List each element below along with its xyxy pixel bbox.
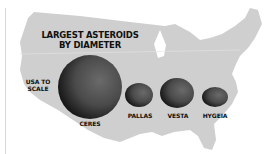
scale-label-line-2: SCALE	[22, 85, 54, 92]
title-line-2: BY DIAMETER	[40, 40, 140, 50]
ceres-asteroid	[58, 55, 122, 119]
vesta-asteroid	[160, 78, 194, 108]
hygeia-label: HYGEIA	[195, 112, 235, 119]
diagram-title: LARGEST ASTEROIDS BY DIAMETER	[40, 30, 140, 50]
pallas-asteroid	[125, 83, 153, 107]
title-line-1: LARGEST ASTEROIDS	[40, 30, 140, 40]
scale-label-line-1: USA TO	[22, 78, 54, 85]
pallas-label: PALLAS	[120, 112, 160, 119]
vesta-label: VESTA	[158, 112, 198, 119]
usa-to-scale-label: USA TO SCALE	[22, 78, 54, 92]
hygeia-asteroid	[202, 87, 228, 107]
usa-map	[0, 0, 280, 154]
ceres-label: CERES	[70, 120, 110, 127]
